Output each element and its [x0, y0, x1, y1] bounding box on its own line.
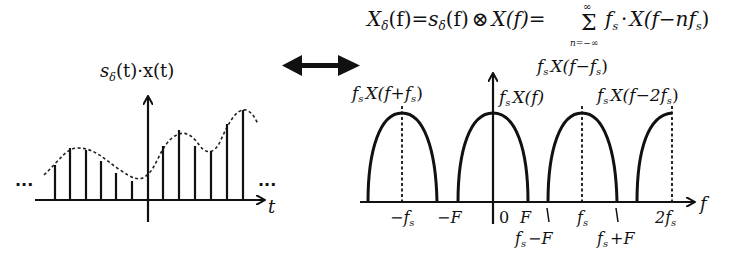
label-fsX-f-plus-fs: fsX(f+fs): [350, 83, 423, 104]
svg-text:Xδ(f)=sδ(f)⊗X(f)=: Xδ(f)=sδ(f)⊗X(f)=: [365, 7, 546, 33]
sum-symbol: Σ: [581, 10, 597, 35]
frequency-domain-plot: f fsX(f+fs) fsX(f) fsX(f−fs) fsX(f−2fs): [350, 56, 710, 249]
formula: Xδ(f)=sδ(f)⊗X(f)= Σ ∞ n=−∞ fs·X(f−nfs): [365, 1, 709, 48]
time-domain-plot: sδ(t)·x(t) t ··· ···: [15, 60, 276, 222]
ellipsis-left: ···: [15, 175, 33, 194]
tick-zero: 0: [499, 208, 509, 227]
label-fsX-f-minus-2fs: fsX(f−2fs): [595, 85, 679, 106]
tick-minus-F: −F: [437, 208, 462, 227]
sum-upper: ∞: [583, 1, 591, 12]
tick-minus-fs: −fs: [390, 208, 414, 228]
tick-F: F: [519, 208, 532, 227]
tick-fs-minus-F: fs−F: [514, 229, 553, 249]
tick-fs: fs: [576, 208, 588, 228]
svg-text:fs·X(f−nfs): fs·X(f−nfs): [603, 7, 709, 33]
f-axis-label: f: [698, 193, 710, 214]
sampling-diagram: Xδ(f)=sδ(f)⊗X(f)= Σ ∞ n=−∞ fs·X(f−nfs) s…: [0, 0, 744, 257]
sum-lower: n=−∞: [570, 38, 598, 48]
lobe-2fs: [637, 113, 672, 202]
tick-fs-plus-F: fs+F: [596, 229, 635, 249]
label-fsX-f: fsX(f): [497, 87, 544, 108]
t-axis-label: t: [268, 196, 276, 217]
label-fsX-f-minus-fs: fsX(f−fs): [535, 56, 608, 77]
spectrum-lobes: [368, 113, 672, 202]
double-arrow-icon: [282, 55, 360, 76]
time-plot-title: sδ(t)·x(t): [100, 60, 174, 84]
tick-2fs: 2fs: [654, 208, 676, 228]
ellipsis-right: ···: [258, 175, 276, 194]
